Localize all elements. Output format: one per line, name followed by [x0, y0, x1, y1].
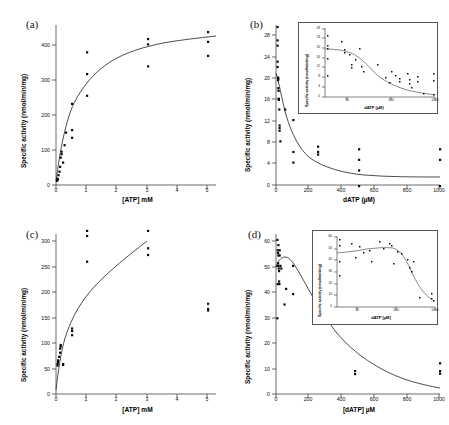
panel-a-xtick-3: 3 [138, 187, 156, 193]
panel-b-inset-ytick-5: 20 [310, 45, 320, 49]
panel-b-ytick-2: 8 [252, 139, 270, 145]
panel-b-inset: Specific activity (nmol/min/mg) dATP (µM… [298, 22, 438, 114]
panel-c-ytick-3: 150 [32, 315, 50, 321]
panel-d-inset-xtick-0: 10 [351, 308, 363, 312]
panel-c-xtick-3: 3 [138, 396, 156, 402]
panel-a-axes [52, 25, 216, 189]
panel-b-inset-ytick-4: 16 [310, 55, 320, 59]
panel-a: (a) Specific activity (nmol/min/mg) [ATP… [0, 0, 225, 212]
panel-d-xtick-5: 1000 [430, 396, 448, 402]
panel-a-ytick-0: 0 [32, 182, 50, 188]
panel-c-ytick-2: 100 [32, 340, 50, 346]
panel-b-inset-xtick-0: 10 [341, 98, 353, 102]
panel-c-xtick-1: 1 [77, 396, 95, 402]
panel-d-inset-ytick-5: 50 [322, 246, 332, 250]
panel-b-inset-xtick-1: 100 [385, 98, 397, 102]
panel-c-xtick-5: 5 [198, 396, 216, 402]
panel-c-axes [52, 234, 216, 398]
panel-d-ytick-3: 30 [252, 315, 270, 321]
panel-b-xtick-4: 800 [398, 187, 416, 193]
panel-a-xtick-5: 5 [198, 187, 216, 193]
panel-d-ytick-6: 60 [252, 238, 270, 244]
panel-d-ytick-1: 10 [252, 366, 270, 372]
panel-a-ytick-3: 300 [32, 77, 50, 83]
panel-b-inset-ytick-7: 28 [310, 26, 320, 30]
panel-c-ytick-6: 300 [32, 238, 50, 244]
panel-d-inset-ytick-3: 30 [322, 269, 332, 273]
figure-container: (a) Specific activity (nmol/min/mg) [ATP… [0, 0, 449, 425]
panel-d-ytick-2: 20 [252, 340, 270, 346]
panel-d-inset-xtick-1: 100 [390, 308, 402, 312]
panel-d-inset: Specific activity (nmol/min/mg) dATP [µM… [312, 230, 438, 325]
panel-c-xtick-2: 2 [107, 396, 125, 402]
panel-c-xtick-4: 4 [168, 396, 186, 402]
panel-a-xtick-2: 2 [107, 187, 125, 193]
panel-b-inset-ytick-6: 24 [310, 35, 320, 39]
panel-c-ytick-4: 200 [32, 289, 50, 295]
panel-c-ytick-0: 0 [32, 391, 50, 397]
panel-b-ytick-5: 20 [252, 75, 270, 81]
panel-d-inset-ytick-1: 10 [322, 292, 332, 296]
panel-d-inset-ytick-4: 40 [322, 257, 332, 261]
panel-d-ytick-0: 0 [252, 391, 270, 397]
panel-c-ytick-5: 250 [32, 264, 50, 270]
panel-b-xtick-3: 600 [365, 187, 383, 193]
panel-d-xtick-3: 600 [365, 396, 383, 402]
panel-d-ytick-5: 50 [252, 264, 270, 270]
panel-b-inset-ytick-0: 0 [310, 94, 320, 98]
panel-c-data-points [57, 230, 210, 367]
panel-b-ytick-3: 12 [252, 118, 270, 124]
panel-a-fit-curve [56, 36, 216, 181]
panel-b-ytick-7: 28 [252, 32, 270, 38]
panel-d-inset-ytick-0: 0 [322, 304, 332, 308]
panel-b-inset-fit-curve [325, 49, 435, 95]
panel-a-xtick-1: 1 [77, 187, 95, 193]
panel-b: (b) Specific activity (nmol/min/mg) dATP… [224, 0, 449, 212]
panel-d-xtick-4: 800 [398, 396, 416, 402]
panel-d-xtick-2: 400 [332, 396, 350, 402]
panel-a-xtick-4: 4 [168, 187, 186, 193]
panel-c-ytick-1: 50 [32, 366, 50, 372]
panel-b-xtick-1: 200 [299, 187, 317, 193]
panel-b-inset-plot [299, 23, 439, 115]
panel-a-ytick-4: 400 [32, 42, 50, 48]
panel-b-ytick-0: 0 [252, 182, 270, 188]
panel-d-inset-ytick-2: 20 [322, 281, 332, 285]
panel-d-inset-axes [334, 236, 435, 310]
panel-b-ytick-6: 24 [252, 54, 270, 60]
panel-c: (c) Specific activity (nmol/min/mg) [ATP… [0, 212, 225, 425]
panel-b-inset-ytick-3: 12 [310, 64, 320, 68]
panel-b-ytick-4: 16 [252, 96, 270, 102]
panel-a-plot [0, 0, 225, 212]
panel-d-inset-ytick-6: 60 [322, 234, 332, 238]
panel-b-xtick-2: 400 [332, 187, 350, 193]
panel-d: (d) Specific activity (nmol/min/mg) [dAT… [224, 212, 449, 425]
panel-a-data-points [56, 31, 209, 182]
panel-b-inset-xtick-2: 1000 [428, 98, 442, 102]
panel-b-inset-ytick-2: 8 [310, 74, 320, 78]
panel-d-inset-data-points [339, 239, 435, 302]
panel-d-ytick-4: 40 [252, 289, 270, 295]
panel-d-xtick-1: 200 [299, 396, 317, 402]
panel-d-inset-xtick-2: 1000 [428, 308, 442, 312]
panel-b-inset-ytick-1: 4 [310, 84, 320, 88]
panel-d-inset-fit-curve [337, 248, 431, 299]
panel-b-ytick-1: 4 [252, 160, 270, 166]
panel-b-inset-data-points [327, 35, 435, 96]
panel-c-fit-curve [56, 241, 147, 390]
panel-b-xtick-5: 1000 [430, 187, 448, 193]
panel-a-ytick-1: 100 [32, 147, 50, 153]
panel-a-ytick-2: 200 [32, 112, 50, 118]
